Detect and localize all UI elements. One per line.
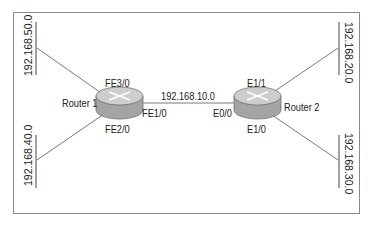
router-1-interface-fe1-0: FE1/0	[142, 107, 167, 119]
link-r2-net20	[272, 48, 338, 93]
router-2-interface-e1-0: E1/0	[247, 123, 266, 135]
router-2-label: Router 2	[284, 101, 319, 113]
link-r1-net40	[37, 114, 104, 160]
router-1-label: Router 1	[62, 97, 97, 109]
router-2-interface-e0-0: E0/0	[213, 107, 232, 119]
link-r1-net50	[37, 48, 104, 95]
link-label: 192.168.10.0	[161, 90, 215, 102]
router-2-interface-e1-1: E1/1	[247, 77, 266, 89]
router-1-interface-fe3-0: FE3/0	[105, 77, 130, 89]
network-label-top-left: 192.168.50.0	[22, 15, 34, 76]
router-2-icon	[234, 87, 281, 119]
router-1-interface-fe2-0: FE2/0	[105, 123, 130, 135]
router-1-icon	[96, 87, 143, 119]
network-label-top-right: 192.168.20.0	[343, 22, 355, 83]
network-label-bottom-left: 192.168.40.0	[22, 125, 34, 186]
network-diagram	[0, 0, 372, 233]
link-r2-net30	[272, 115, 338, 160]
network-label-bottom-right: 192.168.30.0	[343, 133, 355, 194]
